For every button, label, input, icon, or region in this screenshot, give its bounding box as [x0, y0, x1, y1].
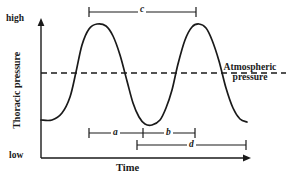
x-axis-title: Time [116, 162, 139, 173]
plot-area [0, 0, 288, 180]
interval-marker-a-label: a [111, 128, 120, 138]
y-axis-low-label: low [9, 151, 23, 161]
interval-marker-d-label: d [187, 140, 196, 150]
atmospheric-pressure-label: Atmospheric pressure [214, 62, 286, 82]
thoracic-pressure-figure: high low Thoracic pressure Time Atmosphe… [0, 0, 288, 180]
atmospheric-pressure-label-line2: pressure [214, 72, 286, 82]
y-axis-high-label: high [6, 14, 24, 24]
x-axis-arrowhead [243, 155, 251, 162]
y-axis-arrowhead [38, 18, 45, 26]
interval-marker-c-label: c [138, 5, 146, 15]
y-axis-title: Thoracic pressure [12, 44, 23, 136]
interval-marker-b-label: b [164, 128, 173, 138]
